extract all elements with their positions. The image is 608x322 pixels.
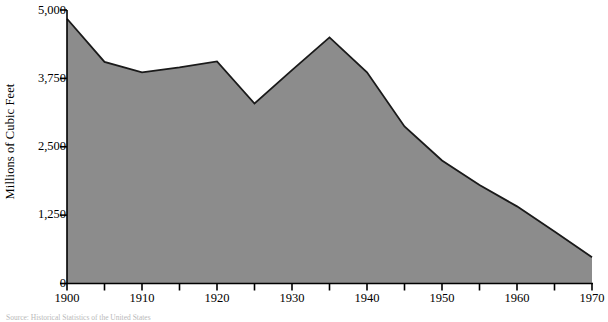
area-series-group — [67, 19, 592, 284]
source-note: Source: Historical Statistics of the Uni… — [6, 313, 151, 322]
y-axis-tick-marks — [60, 10, 67, 284]
area-chart: Millions of Cubic Feet 5,000 3,750 2,500… — [0, 0, 608, 322]
x-axis-tick-marks — [67, 284, 592, 291]
area-series-fill — [67, 19, 592, 284]
plot-area — [0, 0, 608, 322]
